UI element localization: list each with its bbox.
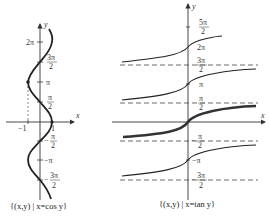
tan-graph: y x 5π 2 2π 3π 2 π π 2 − π 2 −π − 3π (112, 2, 265, 209)
tan-tick-3pi2: 3π 2 (197, 56, 207, 74)
tan-tick-neg-pi2: − π 2 (191, 132, 204, 150)
tan-tick-2pi: 2π (197, 43, 205, 52)
svg-text:3π: 3π (47, 53, 55, 62)
svg-text:3π: 3π (50, 171, 58, 180)
tan-x-label: x (260, 111, 265, 120)
svg-text:2: 2 (52, 181, 56, 190)
cos-y-label: y (43, 20, 48, 29)
svg-text:−: − (191, 175, 196, 184)
svg-text:3π: 3π (197, 171, 205, 180)
tan-caption: {(x,y) | x=tan y} (159, 199, 215, 209)
svg-text:2: 2 (199, 65, 203, 74)
cos-tick-neg1: −1 (18, 124, 27, 133)
svg-text:2: 2 (48, 102, 52, 111)
svg-text:π: π (51, 132, 55, 141)
svg-text:2: 2 (199, 181, 203, 190)
svg-text:−: − (44, 136, 49, 145)
tan-tick-neg-3pi2: − 3π 2 (191, 171, 207, 190)
svg-text:2: 2 (198, 141, 202, 150)
tan-tick-pi2: π 2 (198, 94, 205, 112)
svg-text:2: 2 (49, 62, 53, 71)
svg-text:2: 2 (51, 141, 55, 150)
svg-text:3π: 3π (197, 56, 205, 65)
cos-tick-neg-pi: −π (44, 156, 53, 165)
svg-text:π: π (48, 93, 52, 102)
tan-tick-pi: π (199, 80, 203, 89)
svg-text:−: − (44, 175, 49, 184)
svg-text:−: − (191, 136, 196, 145)
tan-tick-neg-pi: −π (192, 156, 201, 165)
cos-point-marker (26, 80, 30, 84)
cos-x-label: x (75, 111, 80, 120)
tan-tick-5pi2: 5π 2 (199, 18, 209, 36)
svg-text:5π: 5π (199, 18, 207, 27)
tan-y-label: y (191, 2, 196, 11)
cos-caption: {(x,y) | x=cos y} (10, 201, 67, 211)
svg-text:2: 2 (201, 27, 205, 36)
svg-text:π: π (198, 132, 202, 141)
tan-branch-principal (123, 106, 256, 137)
cos-tick-pi: π (46, 78, 50, 87)
cos-tick-2pi: 2π (26, 38, 34, 47)
diagram-canvas: y x 2π 3π 2 π π 2 −1 1 − π 2 −π − 3π 2 {… (0, 0, 269, 219)
svg-text:2: 2 (199, 103, 203, 112)
cos-tick-3pi2: 3π 2 (47, 53, 57, 71)
svg-text:π: π (199, 94, 203, 103)
cos-tick-pi2: π 2 (47, 93, 54, 111)
cos-graph: y x 2π 3π 2 π π 2 −1 1 − π 2 −π − 3π 2 {… (6, 20, 80, 211)
tan-branch-lower (122, 145, 256, 176)
tan-branch-upper (122, 36, 222, 62)
tan-branch-middle (122, 69, 256, 100)
